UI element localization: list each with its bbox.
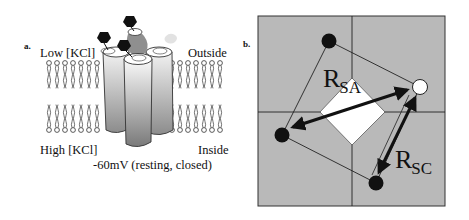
panel-b-geometry-diagram: b. RSA RSC	[235, 0, 469, 220]
lipid-bilayer-right	[170, 61, 223, 133]
channel-protein	[97, 16, 177, 147]
r-sc-subscript: SC	[411, 159, 432, 178]
filled-dot-top	[322, 34, 337, 49]
filled-dot-left	[275, 128, 290, 143]
r-sc-main: R	[395, 145, 412, 174]
panel-letter-a: a.	[24, 41, 31, 51]
square-distance-diagram	[235, 0, 469, 220]
channel-membrane-illustration	[0, 0, 235, 220]
label-inside: Inside	[198, 143, 229, 158]
label-outside: Outside	[188, 46, 227, 61]
black-tag-icon	[123, 16, 137, 27]
caption-resting-closed: -60mV (resting, closed)	[93, 158, 212, 173]
black-tag-icon	[97, 32, 111, 43]
open-dot-right	[413, 80, 428, 95]
r-sa-label: RSA	[323, 66, 361, 96]
r-sa-main: R	[323, 64, 340, 93]
label-high-kcl: High [KCl]	[40, 143, 97, 158]
lipid-bilayer-left	[47, 61, 100, 133]
r-sa-subscript: SA	[339, 78, 361, 97]
r-sc-label: RSC	[395, 147, 432, 177]
panel-a-channel-diagram: a. Low [KCl] Outside High [KCl] Inside -…	[0, 0, 235, 220]
faint-tag-icon	[165, 34, 178, 44]
label-low-kcl: Low [KCl]	[40, 46, 95, 61]
filled-dot-bottom	[369, 176, 384, 191]
